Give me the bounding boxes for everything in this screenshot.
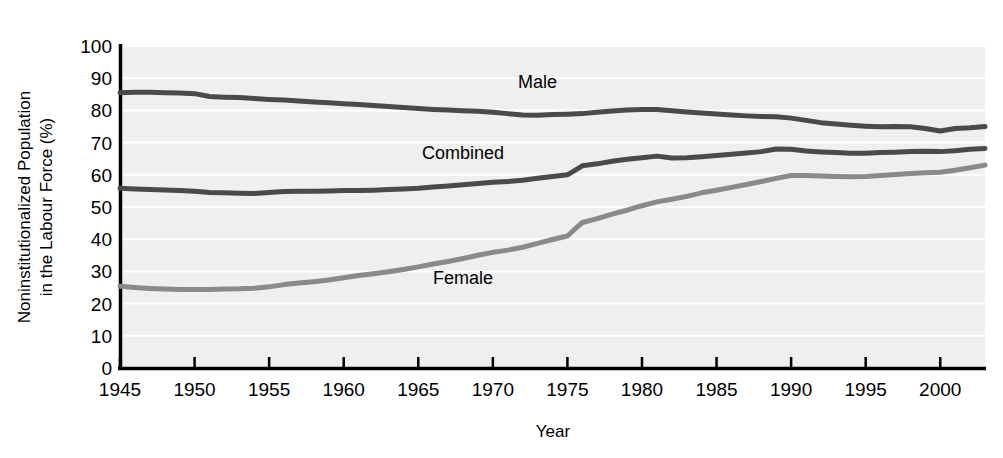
y-tick-label: 30 — [91, 261, 112, 282]
x-tick-label: 1955 — [248, 379, 290, 400]
y-tick-label: 10 — [91, 326, 112, 347]
y-tick-label: 70 — [91, 133, 112, 154]
x-tick-label: 1970 — [472, 379, 514, 400]
x-tick-label: 1950 — [173, 379, 215, 400]
x-tick-label: 2000 — [919, 379, 961, 400]
y-axis-label-line2: in the Labour Force (%) — [37, 118, 56, 297]
y-tick-label: 80 — [91, 100, 112, 121]
x-tick-label: 1975 — [546, 379, 588, 400]
y-tick-label: 50 — [91, 197, 112, 218]
chart-figure: 1009080706050403020100 19451950195519601… — [0, 0, 1003, 458]
line-chart: 1009080706050403020100 19451950195519601… — [0, 0, 1003, 458]
x-tick-label: 1980 — [621, 379, 663, 400]
x-axis-label: Year — [536, 422, 571, 441]
series-label-female: Female — [433, 268, 493, 288]
x-axis-tick-labels: 1945195019551960196519701975198019851990… — [99, 379, 962, 400]
y-tick-label: 90 — [91, 68, 112, 89]
y-tick-label: 60 — [91, 165, 112, 186]
y-tick-label: 100 — [80, 36, 112, 57]
x-tick-label: 1985 — [695, 379, 737, 400]
x-tick-label: 1960 — [323, 379, 365, 400]
x-tick-label: 1995 — [845, 379, 887, 400]
x-tick-label: 1990 — [770, 379, 812, 400]
series-label-combined: Combined — [422, 143, 504, 163]
y-axis-tick-labels: 1009080706050403020100 — [80, 36, 112, 379]
y-tick-label: 0 — [101, 358, 112, 379]
y-tick-label: 20 — [91, 294, 112, 315]
y-axis-label-line1: Noninstitutionalized Population — [15, 91, 34, 324]
x-tick-label: 1945 — [99, 379, 141, 400]
x-tick-label: 1965 — [397, 379, 439, 400]
series-label-male: Male — [518, 72, 557, 92]
y-tick-label: 40 — [91, 229, 112, 250]
